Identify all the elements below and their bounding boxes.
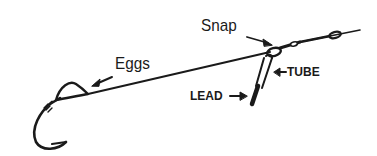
- tube-arrow-head: [274, 68, 280, 76]
- fishing-rig-diagram: Eggs Snap TUBE LEAD: [0, 0, 377, 156]
- lead-weight: [252, 86, 258, 104]
- snap-arrow-head: [263, 39, 272, 46]
- label-eggs: Eggs: [115, 54, 150, 74]
- rig-illustration: [0, 0, 377, 156]
- label-tube: TUBE: [287, 65, 320, 79]
- label-snap: Snap: [201, 16, 237, 36]
- eggs-arrow-head: [92, 79, 100, 86]
- swivel-body: [300, 36, 330, 42]
- lead-arrow-head: [240, 92, 247, 100]
- swivel-bead: [290, 41, 298, 47]
- label-lead: LEAD: [190, 89, 223, 103]
- tube: [256, 58, 272, 88]
